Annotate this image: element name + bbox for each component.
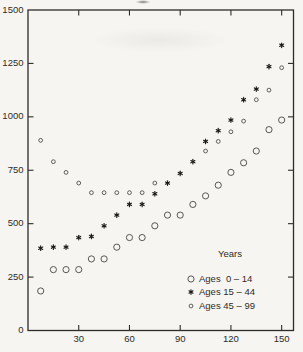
data-point-ages-15-44	[268, 66, 270, 68]
data-point-ages-45-99	[204, 149, 208, 153]
x-axis-tick-label: 120	[223, 333, 239, 344]
large-circle-icon	[184, 274, 198, 284]
data-point-ages-15-44	[53, 246, 55, 248]
data-point-ages-15-44	[230, 119, 232, 121]
data-point-ages-45-99	[102, 191, 106, 195]
legend-title: Years	[218, 248, 300, 260]
data-point-ages-0-14	[253, 148, 259, 154]
data-point-ages-15-44	[129, 204, 131, 206]
data-point-ages-15-44	[205, 141, 207, 143]
data-point-ages-15-44	[192, 161, 194, 163]
data-point-ages-45-99	[115, 191, 119, 195]
data-point-ages-0-14	[63, 267, 69, 273]
data-point-ages-45-99	[64, 170, 68, 174]
data-point-ages-0-14	[38, 288, 44, 294]
data-point-ages-45-99	[267, 88, 271, 92]
data-point-ages-15-44	[141, 204, 143, 206]
data-point-ages-15-44	[65, 246, 67, 248]
x-axis-tick-label: 150	[274, 333, 290, 344]
data-point-ages-15-44	[243, 99, 245, 101]
legend: Years Ages 0 – 14 Ages 15 – 44 Ag	[184, 248, 300, 313]
y-axis-tick-label: 750	[8, 164, 24, 175]
data-point-ages-0-14	[177, 212, 183, 218]
data-point-ages-0-14	[50, 267, 56, 273]
y-axis-tick-label: 250	[8, 271, 24, 282]
data-point-ages-45-99	[128, 191, 132, 195]
data-point-ages-0-14	[241, 160, 247, 166]
data-point-ages-15-44	[78, 237, 80, 239]
data-point-ages-45-99	[216, 140, 220, 144]
data-point-ages-45-99	[77, 181, 81, 185]
data-point-ages-0-14	[76, 267, 82, 273]
star-icon	[184, 287, 198, 297]
data-point-ages-45-99	[39, 138, 43, 142]
legend-entry-ages-45-99: Ages 45 – 99	[184, 299, 300, 313]
data-point-ages-15-44	[154, 193, 156, 195]
legend-entry-ages-0-14: Ages 0 – 14	[184, 272, 300, 286]
data-point-ages-0-14	[139, 234, 145, 240]
x-axis-tick-label: 30	[73, 333, 84, 344]
data-point-ages-45-99	[229, 130, 233, 134]
data-point-ages-0-14	[114, 244, 120, 250]
data-point-ages-0-14	[279, 117, 285, 123]
x-axis-tick-label: 60	[124, 333, 135, 344]
y-axis-tick-label: 500	[8, 217, 24, 228]
legend-label: Ages 0 – 14	[198, 273, 252, 285]
data-point-ages-45-99	[51, 160, 55, 164]
legend-label: Ages 45 – 99	[198, 300, 255, 312]
data-point-ages-0-14	[266, 127, 272, 133]
legend-label: Ages 15 – 44	[198, 286, 255, 298]
data-point-ages-0-14	[152, 223, 158, 229]
legend-entry-ages-15-44: Ages 15 – 44	[184, 286, 300, 300]
data-point-ages-15-44	[217, 130, 219, 132]
data-point-ages-0-14	[215, 182, 221, 188]
data-point-ages-45-99	[242, 119, 246, 123]
data-point-ages-0-14	[101, 256, 107, 262]
data-point-ages-0-14	[88, 256, 94, 262]
data-point-ages-15-44	[167, 182, 169, 184]
data-point-ages-45-99	[153, 181, 157, 185]
data-point-ages-15-44	[116, 214, 118, 216]
data-point-ages-0-14	[202, 193, 208, 199]
data-point-ages-15-44	[103, 225, 105, 227]
data-point-ages-45-99	[140, 191, 144, 195]
y-axis-tick-label: 1250	[2, 57, 23, 68]
small-circle-icon	[184, 301, 198, 311]
data-point-ages-15-44	[256, 88, 258, 90]
data-point-ages-15-44	[91, 236, 93, 238]
data-point-ages-0-14	[126, 234, 132, 240]
y-axis-tick-label: 1000	[2, 110, 23, 121]
y-axis-tick-label: 0	[18, 324, 23, 335]
data-point-ages-0-14	[228, 169, 234, 175]
data-point-ages-15-44	[179, 173, 181, 175]
data-point-ages-15-44	[40, 247, 42, 249]
data-point-ages-15-44	[281, 45, 283, 47]
data-point-ages-0-14	[190, 201, 196, 207]
data-point-ages-0-14	[164, 212, 170, 218]
data-point-ages-45-99	[90, 191, 94, 195]
data-point-ages-45-99	[254, 98, 258, 102]
y-axis-tick-label: 1500	[2, 4, 23, 15]
scanned-figure-page: 3060901201500250500750100012501500 Years…	[0, 0, 303, 352]
data-point-ages-45-99	[280, 66, 284, 70]
x-axis-tick-label: 90	[175, 333, 186, 344]
